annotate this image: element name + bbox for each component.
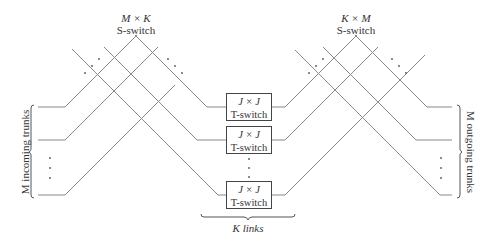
tswitch-box-2: J × J T-switch xyxy=(226,126,272,154)
right-sswitch-label: K × M S-switch xyxy=(326,12,386,36)
link-right-2 xyxy=(272,47,378,140)
tswitch-3-dims: J × J xyxy=(238,184,260,195)
right-sswitch-name: S-switch xyxy=(326,24,386,36)
outgoing-trunks-label: M outgoing trunks xyxy=(465,102,477,202)
tswitch-box-1: J × J T-switch xyxy=(226,93,272,121)
left-sswitch-name: S-switch xyxy=(106,24,166,36)
outgoing-trunk-3b xyxy=(295,50,452,195)
tswitch-2-dims: J × J xyxy=(238,129,260,140)
link-left-3 xyxy=(72,49,226,195)
links-label: K links xyxy=(218,222,278,234)
tswitch-1-dims: J × J xyxy=(238,96,260,107)
tswitch-3-label: T-switch xyxy=(227,196,271,209)
links-brace xyxy=(201,214,295,220)
link-right-1 xyxy=(272,35,357,107)
right-sswitch-dims: K × M xyxy=(326,12,386,24)
link-left-2 xyxy=(104,47,226,140)
left-sswitch-label: M × K S-switch xyxy=(106,12,166,36)
incoming-trunk-1 xyxy=(38,35,137,107)
tswitch-2-label: T-switch xyxy=(227,141,271,154)
outgoing-trunk-2 xyxy=(323,47,452,140)
left-sswitch-dims: M × K xyxy=(106,12,166,24)
outgoing-brace xyxy=(457,105,462,198)
incoming-trunk-2 xyxy=(38,47,158,140)
tswitch-1-label: T-switch xyxy=(227,108,271,121)
incoming-trunks-label: M incoming trunks xyxy=(19,102,31,202)
tswitch-box-3: J × J T-switch xyxy=(226,181,272,209)
link-left-1 xyxy=(135,35,226,107)
outgoing-trunk-1 xyxy=(355,35,452,107)
